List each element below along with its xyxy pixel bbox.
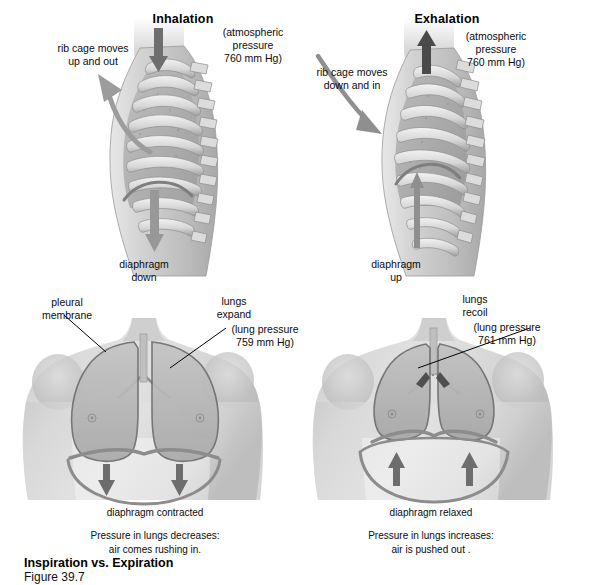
diaphragm-motion-label-left: diaphragm down [96, 258, 192, 284]
air-exiting-bronchi-arrows [416, 372, 450, 388]
summary-text-left: Pressure in lungs decreases: air comes r… [62, 529, 248, 557]
diaphragm-motion-label-right: diaphragm up [352, 258, 440, 284]
panel-heading-inhalation: Inhalation [128, 12, 238, 26]
lung-pressure-label-left: (lung pressure 759 mm Hg) [217, 323, 313, 349]
ribcage-motion-label-left: rib cage moves up and out [42, 42, 144, 68]
atmospheric-pressure-label-left: (atmospheric pressure 760 mm Hg) [205, 26, 301, 65]
panel-heading-exhalation: Exhalation [392, 12, 502, 26]
atmospheric-pressure-label-right: (atmospheric pressure 760 mm Hg) [446, 30, 546, 69]
figure-root: Inhalation (atmospheric pressure 760 mm … [0, 0, 592, 585]
diaphragm-state-label-left: diaphragm contracted [62, 506, 248, 519]
ribcage-motion-label-right: rib cage moves down and in [300, 66, 404, 92]
diaphragm-state-label-right: diaphragm relaxed [338, 506, 524, 519]
summary-text-right: Pressure in lungs increases: air is push… [338, 529, 524, 557]
diaphragm-relax-arrows-up [388, 452, 478, 486]
figure-number: Figure 39.7 [24, 570, 85, 584]
ribcage-up-and-out-arrow [110, 98, 150, 152]
diaphragm-down-arrow [145, 190, 164, 252]
diaphragm-up-arrow [410, 172, 424, 248]
airflow-arrow-down-inhalation [149, 28, 168, 72]
airflow-arrow-up-exhalation [417, 30, 436, 74]
ribcage-arrow-head-right [356, 110, 382, 134]
ribcage-arrow-head [98, 74, 122, 102]
lungs-recoil-label: lungs recoil [444, 293, 506, 319]
pleural-membrane-label: pleural membrane [24, 296, 110, 322]
lungs-expand-label: lungs expand [203, 295, 265, 321]
figure-title: Inspiration vs. Expiration [24, 556, 173, 570]
lung-pressure-label-right: (lung pressure 761 mm Hg) [458, 321, 556, 347]
diaphragm-contract-arrows-down [98, 464, 188, 496]
